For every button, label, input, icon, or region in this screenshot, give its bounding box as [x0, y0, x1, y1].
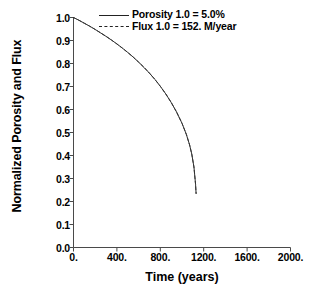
plot-area — [0, 0, 319, 299]
series-line-porosity — [74, 18, 197, 194]
chart-figure: Normalized Porosity and Flux 0.00.10.20.… — [0, 0, 319, 299]
series-line-flux — [74, 18, 197, 194]
